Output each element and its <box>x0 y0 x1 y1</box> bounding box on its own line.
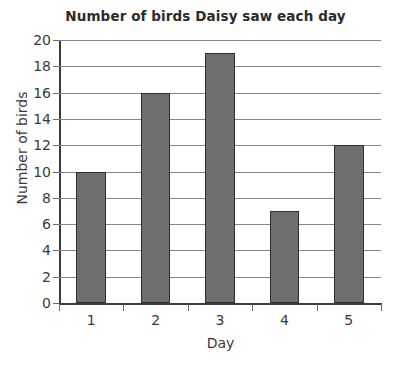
x-axis-tick <box>317 304 318 311</box>
y-axis-tick-label: 4 <box>5 242 51 258</box>
x-axis-tick-label: 1 <box>71 312 111 328</box>
x-axis-line <box>59 303 382 305</box>
x-axis-tick <box>59 304 60 311</box>
x-axis-title: Day <box>59 335 382 351</box>
y-axis-tick-label: 18 <box>5 58 51 74</box>
bar <box>141 93 171 303</box>
x-axis-tick-label: 2 <box>136 312 176 328</box>
y-axis-tick-label: 2 <box>5 269 51 285</box>
chart-title: Number of birds Daisy saw each day <box>0 8 411 24</box>
bar <box>334 145 364 303</box>
y-axis-title: Number of birds <box>14 88 30 208</box>
x-axis-tick-label: 3 <box>200 312 240 328</box>
x-axis-tick-label: 5 <box>329 312 369 328</box>
x-axis-tick-label: 4 <box>264 312 304 328</box>
x-axis-tick <box>188 304 189 311</box>
x-axis-tick <box>252 304 253 311</box>
y-axis-tick-label: 0 <box>5 295 51 311</box>
gridline <box>59 40 381 41</box>
y-axis-tick-label: 6 <box>5 216 51 232</box>
plot-area <box>59 40 381 303</box>
x-axis-tick <box>123 304 124 311</box>
bar <box>270 211 300 303</box>
x-axis-tick <box>381 304 382 311</box>
bar-chart-figure: Number of birds Daisy saw each day 02468… <box>0 0 411 371</box>
y-axis-tick-label: 20 <box>5 32 51 48</box>
bar <box>205 53 235 303</box>
bar <box>76 172 106 304</box>
